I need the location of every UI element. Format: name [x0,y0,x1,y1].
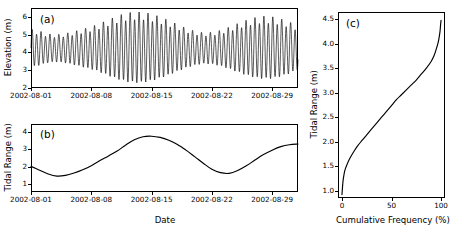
x-tick-label: 2002-08-22 [191,196,233,203]
x-tick-label: 2002-08-08 [70,196,112,203]
x-tick-label: 2002-08-22 [191,92,233,99]
x-tick-label: 2002-08-15 [131,196,173,203]
y-tickmark [28,167,31,168]
panel-b-plot-area [31,124,298,192]
y-tickmark [28,132,31,133]
y-tickmark [28,70,31,71]
panel-c-cumulative-frequency: (c) [338,12,445,198]
x-tick-label: 2002-08-01 [10,92,52,99]
panel-c-tag: (c) [346,18,360,29]
tidal-range-series-line [31,136,298,176]
y-tickmark [28,35,31,36]
y-tick-label: 1.0 [304,187,334,194]
y-tickmark [28,184,31,185]
y-tickmark [335,68,338,69]
panel-a-elevation-timeseries: (a) [31,8,298,88]
panel-c-plot-area [338,12,445,198]
y-tickmark [28,52,31,53]
panel-b-tidal-range-timeseries: (b) [31,124,298,192]
y-tickmark [335,93,338,94]
x-tick-label: 2002-08-29 [251,92,293,99]
y-tickmark [335,166,338,167]
x-tick-label: 50 [387,202,396,209]
x-tick-label: 2002-08-15 [131,92,173,99]
y-tickmark [335,142,338,143]
panel-c-ylabel: Tidal Range (m) [310,58,319,150]
y-tickmark [335,19,338,20]
x-tick-label: 100 [434,202,448,209]
panel-c-xlabel: Cumulative Frequency (%) [330,216,456,225]
panel-b-ylabel: Tidal Range (m) [4,114,13,200]
y-tickmark [28,17,31,18]
y-tick-label: 4.5 [304,16,334,23]
x-tick-label: 2002-08-01 [10,196,52,203]
cumulative-frequency-line [342,20,441,194]
y-tickmark [28,149,31,150]
y-tick-label: 4.0 [304,40,334,47]
panel-a-plot-area [31,8,298,88]
y-tick-label: 2.0 [304,138,334,145]
x-tick-label: 0 [340,202,345,209]
y-tick-label: 1.5 [304,163,334,170]
x-tick-label: 2002-08-08 [70,92,112,99]
y-tickmark [335,44,338,45]
panel-b-tag: (b) [40,129,55,140]
tidal-analysis-figure: (a) 234562002-08-012002-08-082002-08-152… [0,0,459,235]
panel-a-tag: (a) [40,14,55,25]
panel-b-xlabel: Date [0,216,330,225]
y-tickmark [335,117,338,118]
panel-a-ylabel: Elevation (m) [4,8,13,86]
y-tickmark [335,191,338,192]
x-tick-label: 2002-08-29 [251,196,293,203]
elevation-series-line [31,12,298,83]
